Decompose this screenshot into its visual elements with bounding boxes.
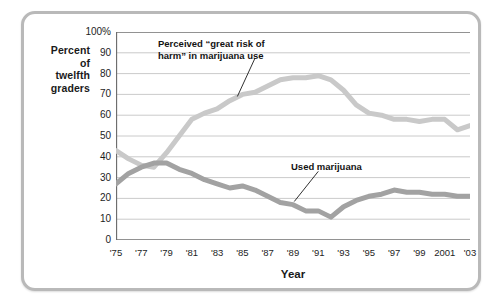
annotation-perceived-risk-line-2: harm” in marijuana use <box>158 50 265 62</box>
y-axis-tick-label-40: 40 <box>69 152 111 162</box>
y-axis-tick-label-50: 50 <box>69 131 111 141</box>
y-axis-tick-label-0: 0 <box>69 235 111 245</box>
x-axis-tick-label-2003: '03 <box>453 248 487 258</box>
y-axis-tick-label-30: 30 <box>69 173 111 183</box>
y-axis-tick-label-80: 80 <box>69 69 111 79</box>
annotation-perceived-risk: Perceived “great risk of harm” in mariju… <box>158 38 265 61</box>
y-axis-title-line-2: of <box>30 57 90 70</box>
y-axis-tick-label-100: 100% <box>69 27 111 37</box>
y-axis-tick-label-20: 20 <box>69 193 111 203</box>
plot-area <box>116 32 470 240</box>
x-axis-title: Year <box>116 268 470 280</box>
y-axis-tick-label-60: 60 <box>69 110 111 120</box>
y-axis-tick-label-90: 90 <box>69 48 111 58</box>
chart-figure: Percent of twelfth graders 0102030405060… <box>0 0 503 305</box>
y-axis-tick-label-10: 10 <box>69 214 111 224</box>
annotation-perceived-risk-line-1: Perceived “great risk of <box>158 38 265 50</box>
y-axis-tick-label-70: 70 <box>69 89 111 99</box>
plot-svg <box>116 32 470 240</box>
annotation-used-marijuana: Used marijuana <box>291 161 362 173</box>
